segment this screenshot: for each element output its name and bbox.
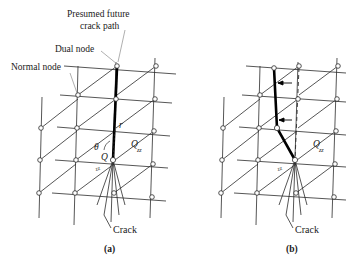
node-dual xyxy=(272,66,277,71)
node xyxy=(114,97,119,102)
presumed-path-label-line1: Presumed future xyxy=(67,9,130,19)
crack-label-a: Crack xyxy=(113,224,137,235)
node xyxy=(256,158,261,163)
node xyxy=(297,64,302,69)
node xyxy=(219,191,224,196)
origin-label-a: Q xyxy=(101,152,108,162)
angle-label-a: θ xyxy=(94,142,99,152)
node xyxy=(150,195,155,200)
node xyxy=(335,97,340,102)
panel-caption-b: (b) xyxy=(286,244,298,255)
radius-label-a: r xyxy=(119,120,123,130)
node xyxy=(74,158,79,163)
node xyxy=(38,158,43,163)
figure-background xyxy=(0,0,346,260)
node xyxy=(332,195,337,200)
node xyxy=(153,97,158,102)
node xyxy=(258,93,263,98)
node xyxy=(154,64,159,69)
node-kink xyxy=(274,125,279,130)
node xyxy=(220,158,225,163)
quantity-subscript-a: zz xyxy=(136,147,142,153)
node xyxy=(37,191,42,196)
node xyxy=(39,126,44,131)
node xyxy=(151,162,156,167)
dual-node-label: Dual node xyxy=(55,44,94,54)
panel-caption-a: (a) xyxy=(104,244,115,255)
node xyxy=(333,162,338,167)
quantity-subscript-b: zz xyxy=(318,147,324,153)
node xyxy=(75,126,80,131)
node-crack-tip xyxy=(292,157,297,162)
node xyxy=(294,191,299,196)
presumed-path-label-line2: crack path xyxy=(80,21,120,31)
node-crack-tip xyxy=(110,157,115,162)
node-dual xyxy=(115,64,120,69)
node xyxy=(257,126,262,131)
node xyxy=(334,129,339,134)
crack-propagation-figure: r θ Q Q zz zz Crack (a) xyxy=(0,0,346,260)
node xyxy=(336,64,341,69)
crack-label-b: Crack xyxy=(295,224,319,235)
node xyxy=(255,191,260,196)
node xyxy=(152,129,157,134)
node xyxy=(73,191,78,196)
node-normal xyxy=(76,93,81,98)
normal-node-label: Normal node xyxy=(11,62,61,72)
node xyxy=(296,97,301,102)
node xyxy=(221,126,226,131)
node xyxy=(112,191,117,196)
